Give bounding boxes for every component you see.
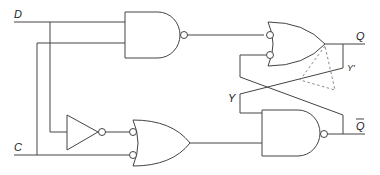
- label-qbar: Q: [356, 120, 365, 132]
- nand-gate-top: [125, 12, 188, 58]
- or-gate-top-right: [267, 22, 326, 66]
- nand-gate-bottom-right: [262, 110, 328, 156]
- label-c: C: [14, 141, 22, 153]
- inversion-bubble: [130, 129, 137, 136]
- inversion-bubble: [130, 152, 137, 159]
- label-y: Y: [228, 92, 236, 104]
- inversion-bubble: [267, 32, 274, 39]
- inversion-bubble: [99, 129, 106, 136]
- inversion-bubble: [267, 52, 274, 59]
- not-gate: [67, 115, 106, 150]
- wire-d-to-inverter: [50, 22, 67, 132]
- logic-circuit-diagram: D C Q Y Y': [0, 0, 380, 175]
- label-q: Q: [356, 30, 365, 42]
- inversion-bubble: [321, 131, 328, 138]
- label-d: D: [14, 8, 22, 20]
- label-y-prime: Y': [347, 63, 355, 73]
- or-gate-bottom-left: [130, 120, 191, 166]
- inversion-bubble: [181, 32, 188, 39]
